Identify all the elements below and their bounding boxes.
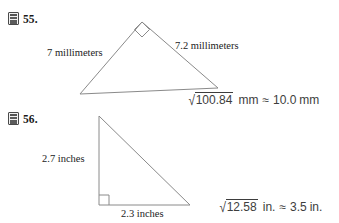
right-angle-marker-56: [99, 195, 109, 205]
answer-56: √ 12.58 in. ≈ 3.5 in.: [219, 199, 322, 214]
radical-sign-icon: √: [220, 200, 227, 215]
triangle-56-outline: [99, 116, 190, 205]
side-label-56-a: 2.7 inches: [42, 153, 85, 164]
side-label-56-b: 2.3 inches: [121, 208, 164, 219]
result-56: 3.5: [290, 200, 307, 214]
relation-56: ≈: [275, 200, 290, 214]
worksheet-page: 55. 7 millimeters 7.2 millimeters √ 100.…: [0, 0, 339, 223]
triangle-figure-56: [0, 0, 339, 223]
radical-56: √ 12.58: [219, 199, 258, 214]
result-unit-56: in.: [307, 200, 323, 214]
radicand-56: 12.58: [226, 199, 258, 214]
radicand-unit-56: in.: [260, 200, 276, 214]
